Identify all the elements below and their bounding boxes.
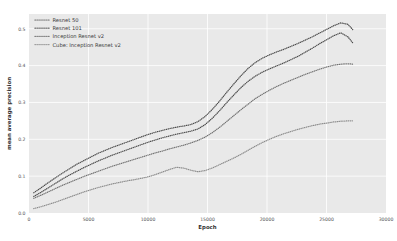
chart-figure: 0500010000150002000025000300000.00.10.20… xyxy=(0,0,397,241)
legend-label: Inception Resnet v2 xyxy=(53,33,105,40)
x-tick-label: 30000 xyxy=(379,217,394,222)
x-tick-label: 15000 xyxy=(200,217,215,222)
chart-svg: 0500010000150002000025000300000.00.10.20… xyxy=(0,0,397,241)
y-axis-title: mean average precision xyxy=(6,77,13,150)
x-tick-label: 5000 xyxy=(83,217,95,222)
x-tick-label: 25000 xyxy=(319,217,334,222)
y-tick-label: 0.4 xyxy=(18,63,25,68)
x-tick-label: 20000 xyxy=(260,217,275,222)
x-axis-title: Epoch xyxy=(198,224,216,231)
y-tick-label: 0.3 xyxy=(18,100,25,105)
legend-label: Resnet 50 xyxy=(53,17,79,23)
y-tick-label: 0.1 xyxy=(18,174,25,179)
y-tick-label: 0.5 xyxy=(18,27,25,32)
y-tick-label: 0.2 xyxy=(18,137,25,142)
x-tick-label: 0 xyxy=(28,217,31,222)
y-tick-label: 0.0 xyxy=(18,211,25,216)
x-tick-label: 10000 xyxy=(141,217,156,222)
legend-label: Cube: Inception Resnet v2 xyxy=(53,42,121,49)
legend-label: Resnet 101 xyxy=(53,25,82,31)
